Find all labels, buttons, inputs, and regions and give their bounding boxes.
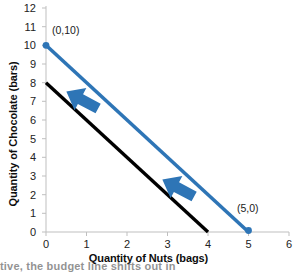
series-line-original (46, 83, 208, 232)
x-tick-label: 1 (76, 238, 98, 250)
x-axis-ticks (46, 232, 289, 236)
y-tick-label: 0 (14, 226, 36, 238)
y-tick-label: 11 (14, 21, 36, 33)
plot-canvas (0, 0, 297, 273)
ppf-chart: 12 11 10 9 8 7 6 5 4 3 2 1 0 0 1 2 3 4 5… (0, 0, 297, 273)
x-tick-label: 4 (197, 238, 219, 250)
page-caption-text: tive, the budget line shifts out in (0, 262, 297, 272)
series-line-new (46, 45, 249, 232)
x-tick-label: 0 (35, 238, 57, 250)
x-tick-label: 5 (238, 238, 260, 250)
x-tick-label: 6 (278, 238, 297, 250)
y-tick-label: 12 (14, 2, 36, 14)
annotation-point-5-0: (5,0) (237, 202, 259, 214)
annotation-point-0-10: (0,10) (52, 24, 79, 36)
shift-arrow-lower-icon (156, 169, 200, 208)
x-tick-label: 2 (116, 238, 138, 250)
marker-point-0-10 (43, 42, 50, 49)
y-axis-ticks (42, 8, 46, 232)
page-caption-strip: tive, the budget line shifts out in (0, 262, 297, 273)
y-axis-title: Quantity of Chocolate (bars) (7, 49, 19, 219)
marker-point-5-0 (245, 227, 252, 234)
x-tick-label: 3 (157, 238, 179, 250)
